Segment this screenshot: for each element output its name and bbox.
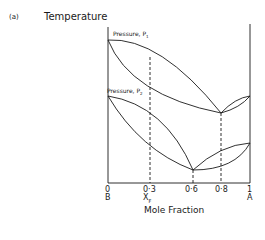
p1-label: Pressure, P1 <box>113 31 149 39</box>
p2-label: Pressure, P2 <box>107 88 143 96</box>
p1-right-lower <box>221 96 250 113</box>
tick-06: 0·6 <box>185 186 198 194</box>
tick-03: 0·3XF <box>143 186 156 204</box>
tick-1: 1A <box>247 186 252 202</box>
p2-bubble-curve <box>108 96 193 170</box>
x-axis-title: Mole Fraction <box>144 206 204 215</box>
p2-right-lower <box>193 143 250 170</box>
p2-dew-curve <box>108 96 193 170</box>
tick-08: 0·8 <box>215 186 228 194</box>
p1-dew-curve <box>108 40 221 113</box>
tick-0: 0B <box>105 186 111 202</box>
p1-right-upper <box>221 96 250 113</box>
p1-bubble-curve <box>108 40 221 113</box>
